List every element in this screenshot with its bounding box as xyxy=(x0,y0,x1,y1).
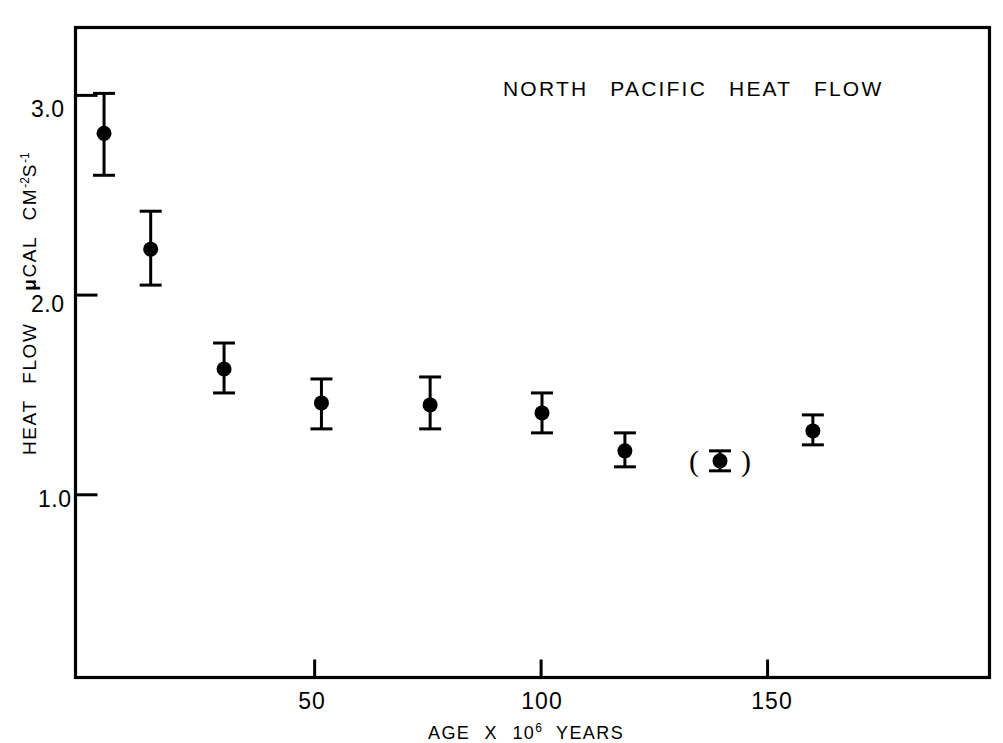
x-axis-tick-label: 100 xyxy=(521,690,562,713)
x-axis-tick-label: 150 xyxy=(751,690,792,713)
data-point-with-error-bar xyxy=(213,343,235,393)
paren-open-annotation: ( xyxy=(689,444,699,478)
data-point-marker xyxy=(314,395,329,410)
y-axis-title: HEAT FLOW μCAL CM-2S-1 xyxy=(19,152,39,455)
y-axis-unit-exponent-1: -2 xyxy=(18,177,32,188)
data-point-marker xyxy=(217,361,232,376)
figure-canvas: NORTH PACIFIC HEAT FLOW 3.0 2.0 1.0 50 1… xyxy=(0,0,1003,743)
data-point-marker xyxy=(617,443,632,458)
x-axis-title-pre: AGE X 10 xyxy=(428,723,535,743)
x-axis-title-exponent: 6 xyxy=(535,721,542,735)
x-axis-title: AGE X 106 YEARS xyxy=(428,722,624,742)
y-axis-unit-mid: S xyxy=(19,163,40,177)
y-axis-title-main: HEAT FLOW xyxy=(19,323,40,455)
y-axis-tick-label: 1.0 xyxy=(38,488,71,511)
data-points-layer xyxy=(93,93,824,470)
data-point-with-error-bar xyxy=(614,433,636,467)
data-point-marker xyxy=(423,397,438,412)
data-point-marker xyxy=(143,242,158,257)
data-point-with-error-bar xyxy=(419,377,441,429)
data-point-with-error-bar xyxy=(140,211,162,285)
x-axis-tick-label: 50 xyxy=(298,690,326,713)
x-axis-title-post: YEARS xyxy=(542,723,624,743)
data-point-with-error-bar xyxy=(93,93,115,175)
data-point-with-error-bar xyxy=(310,379,332,429)
chart-title: NORTH PACIFIC HEAT FLOW xyxy=(503,78,883,99)
y-axis-unit-mu: μ xyxy=(19,278,40,291)
tick-marks xyxy=(76,95,768,677)
axes-frame xyxy=(76,28,990,678)
y-axis-unit-exponent-2: -1 xyxy=(18,152,32,163)
data-point-with-error-bar xyxy=(709,451,731,471)
data-point-with-error-bar xyxy=(531,393,553,433)
data-point-marker xyxy=(713,453,728,468)
data-point-with-error-bar xyxy=(802,415,824,445)
y-axis-tick-label: 3.0 xyxy=(31,98,64,121)
data-point-marker xyxy=(805,423,820,438)
paren-close-annotation: ) xyxy=(741,444,751,478)
data-point-marker xyxy=(97,126,112,141)
y-axis-unit-pre: CAL CM xyxy=(19,188,40,278)
data-point-marker xyxy=(535,405,550,420)
plot-svg xyxy=(0,0,1003,743)
